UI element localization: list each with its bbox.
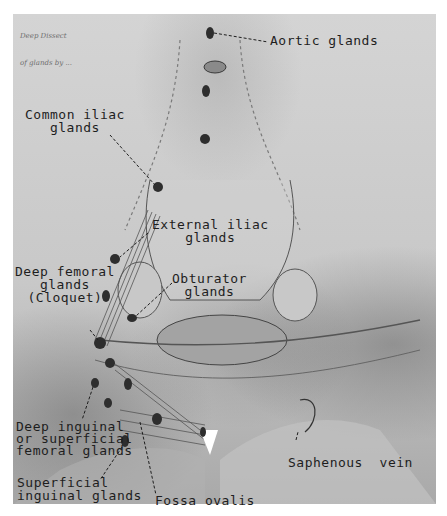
note-line-1: Deep Dissect bbox=[20, 32, 72, 41]
label-deep-inguinal-glands: Deep inguinal or superficial femoral gla… bbox=[16, 421, 133, 457]
label-obturator-glands: Obturator glands bbox=[172, 272, 247, 298]
label-saphenous-vein: Saphenous vein bbox=[288, 456, 413, 469]
label-common-iliac-glands: Common iliac glands bbox=[25, 108, 125, 134]
note-line-2: of glands by ... bbox=[20, 59, 72, 68]
label-external-iliac-glands: External iliac glands bbox=[152, 218, 269, 244]
label-aortic-glands: Aortic glands bbox=[270, 34, 378, 47]
label-superficial-inguinal-glands: Superficial inguinal glands bbox=[17, 476, 142, 502]
handwritten-note: Deep Dissect of glands by ... bbox=[20, 14, 72, 77]
label-deep-femoral-glands: Deep femoral glands (Cloquet) bbox=[15, 265, 115, 304]
label-fossa-ovalis: Fossa ovalis bbox=[155, 494, 255, 507]
navel bbox=[204, 61, 226, 73]
